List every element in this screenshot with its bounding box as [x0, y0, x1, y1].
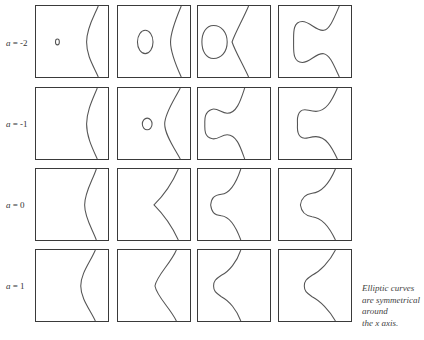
curve-panel-r1-c2 [117, 5, 191, 78]
row-label-a-0: a = 0 [6, 200, 34, 210]
elliptic-curve-icon [279, 6, 351, 77]
row-label-value: = 1 [11, 281, 25, 291]
elliptic-curve-icon [279, 88, 351, 159]
elliptic-curve-icon [198, 88, 270, 159]
elliptic-curve-icon [118, 169, 190, 240]
row-label-a-minus-1: a = -1 [6, 119, 34, 129]
curve-panel-r2-c3 [197, 87, 271, 160]
row-label-a-1: a = 1 [6, 281, 34, 291]
elliptic-curve-icon [36, 169, 108, 240]
row-label-value: = -2 [11, 38, 28, 48]
curve-panel-r2-c2 [117, 87, 191, 160]
curve-panel-r3-c4 [278, 168, 352, 241]
row-label-value: = -1 [11, 119, 28, 129]
caption-line: the x axis. [362, 318, 424, 330]
elliptic-curve-icon [279, 169, 351, 240]
curve-panel-r3-c3 [197, 168, 271, 241]
elliptic-curve-icon [198, 169, 270, 240]
curve-panel-r4-c4 [278, 249, 352, 322]
elliptic-curve-icon [36, 6, 108, 77]
caption-line: are symmetrical [362, 295, 424, 307]
elliptic-curve-icon [279, 250, 351, 321]
row-label-value: = 0 [11, 200, 25, 210]
elliptic-curve-icon [198, 250, 270, 321]
elliptic-curve-icon [36, 88, 108, 159]
curve-panel-r2-c1 [35, 87, 109, 160]
caption-line: around [362, 306, 424, 318]
elliptic-curve-icon [36, 250, 108, 321]
elliptic-curve-icon [118, 88, 190, 159]
curve-panel-r3-c2 [117, 168, 191, 241]
curve-panel-r2-c4 [278, 87, 352, 160]
elliptic-curve-icon [198, 6, 270, 77]
figure-caption: Elliptic curves are symmetrical around t… [362, 283, 424, 329]
curve-panel-r1-c1 [35, 5, 109, 78]
curve-panel-r1-c4 [278, 5, 352, 78]
elliptic-curve-icon [118, 6, 190, 77]
curve-panel-r1-c3 [197, 5, 271, 78]
curve-panel-r4-c1 [35, 249, 109, 322]
caption-line: Elliptic curves [362, 283, 424, 295]
row-label-a-minus-2: a = -2 [6, 38, 34, 48]
curve-panel-r4-c3 [197, 249, 271, 322]
curve-panel-r3-c1 [35, 168, 109, 241]
elliptic-curve-icon [118, 250, 190, 321]
curve-panel-r4-c2 [117, 249, 191, 322]
